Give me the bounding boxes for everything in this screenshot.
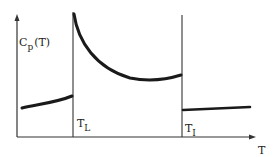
curve-between-tl-ti — [74, 14, 181, 80]
t-l-label: TL — [77, 117, 90, 133]
curve-below-tl — [22, 96, 72, 108]
curves — [22, 14, 250, 110]
t-i-label: TI — [185, 122, 196, 138]
y-axis-arrow-icon — [15, 14, 20, 21]
curve-above-ti — [183, 107, 250, 110]
heat-capacity-chart: Cp(T) TL TI T — [0, 0, 274, 157]
x-axis-arrow-icon — [249, 135, 256, 140]
y-axis-label: Cp(T) — [19, 36, 50, 52]
x-axis-label: T — [258, 144, 266, 157]
